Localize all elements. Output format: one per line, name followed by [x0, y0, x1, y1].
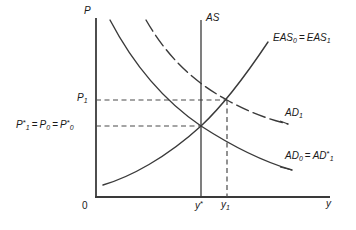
- eas-curve-label: EAS0=EAS1: [273, 33, 331, 44]
- y1-sub: 1: [226, 204, 230, 211]
- eas-curve: [103, 42, 268, 185]
- output-label-ystar: y*: [195, 200, 203, 211]
- p0g-term1: P: [16, 119, 23, 130]
- ad0-label-equals: =: [303, 150, 313, 161]
- p1-sub: 1: [84, 97, 88, 104]
- guide-lines-group: [96, 100, 227, 197]
- p0g-term3-sub: 0: [70, 124, 74, 131]
- ad0-label-suffix: AD: [313, 150, 327, 161]
- x-axis-label: y: [326, 199, 331, 209]
- ad1-curve: [146, 20, 288, 124]
- p0g-equals-1: =: [30, 119, 40, 130]
- price-label-p1: P1: [77, 93, 88, 104]
- price-label-p0-group: P*1=P0=P*0: [16, 119, 74, 131]
- ad0-label-prefix: AD: [285, 150, 299, 161]
- as-curve-label: AS: [206, 13, 219, 23]
- eas-label-suffix: EAS: [307, 32, 327, 43]
- output-label-y1: y1: [221, 200, 230, 211]
- ad1-curve-label: AD1: [285, 108, 303, 119]
- p0g-equals-2: =: [50, 119, 60, 130]
- ad1-label-prefix: AD: [285, 107, 299, 118]
- p0g-term3: P: [60, 119, 67, 130]
- ystar-star: *: [200, 199, 203, 208]
- ad1-label-sub: 1: [299, 112, 303, 119]
- eas-label-sub-1: 1: [327, 37, 331, 44]
- y-axis-label: P: [84, 6, 91, 16]
- origin-label: 0: [82, 201, 88, 211]
- ad-as-diagram: P y 0 AS EAS0=EAS1 AD1 AD0=AD*1 P1 P*1=P…: [0, 0, 356, 230]
- label-leader-lines: [280, 121, 292, 170]
- eas-label-equals: =: [297, 32, 307, 43]
- ad0-label-sub-1: 1: [330, 155, 334, 162]
- eas-label-prefix: EAS: [273, 32, 293, 43]
- p1-symbol: P: [77, 92, 84, 103]
- ad0-curve-label: AD0=AD*1: [285, 150, 334, 162]
